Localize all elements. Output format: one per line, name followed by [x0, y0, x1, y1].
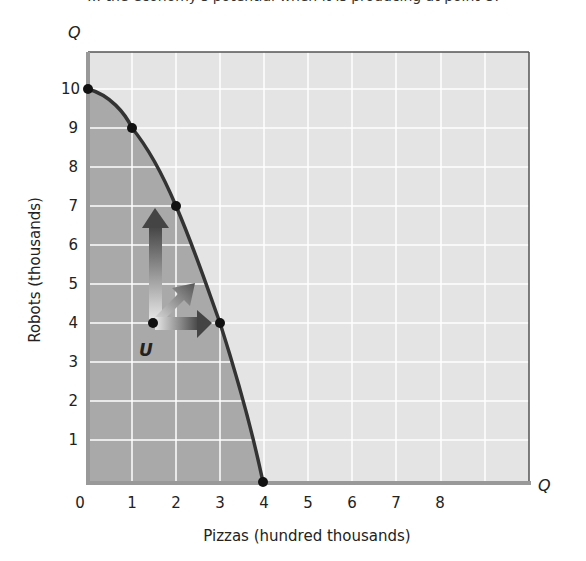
svg-text:5: 5: [68, 275, 78, 293]
x-axis-end-label: Q: [538, 476, 551, 495]
svg-text:0: 0: [75, 494, 85, 512]
svg-text:6: 6: [68, 236, 78, 254]
svg-text:1: 1: [127, 494, 137, 512]
svg-text:3: 3: [215, 494, 225, 512]
svg-text:2: 2: [68, 392, 78, 410]
point-u-label: U: [139, 340, 153, 360]
point-u: [148, 318, 158, 328]
ppf-chart: U 1 2 3 4 5 6 7 8 9 10 0 1 2 3 4 5 6 7 8…: [0, 0, 586, 561]
svg-text:3: 3: [68, 353, 78, 371]
svg-text:8: 8: [68, 158, 78, 176]
y-axis: [86, 52, 90, 484]
x-axis: [86, 481, 531, 485]
svg-text:5: 5: [303, 494, 313, 512]
svg-text:7: 7: [391, 494, 401, 512]
svg-text:4: 4: [259, 494, 269, 512]
y-axis-end-label: Q: [68, 23, 81, 42]
svg-text:2: 2: [171, 494, 181, 512]
svg-text:1: 1: [68, 431, 78, 449]
svg-text:8: 8: [435, 494, 445, 512]
svg-text:4: 4: [68, 314, 78, 332]
x-axis-label: Pizzas (hundred thousands): [203, 527, 410, 545]
x-tick-labels: 0 1 2 3 4 5 6 7 8: [75, 494, 445, 512]
y-axis-label: Robots (thousands): [26, 197, 44, 343]
svg-text:10: 10: [61, 80, 80, 98]
svg-text:6: 6: [347, 494, 357, 512]
y-tick-labels: 1 2 3 4 5 6 7 8 9 10: [61, 80, 80, 449]
svg-text:7: 7: [68, 197, 78, 215]
svg-text:9: 9: [68, 119, 78, 137]
